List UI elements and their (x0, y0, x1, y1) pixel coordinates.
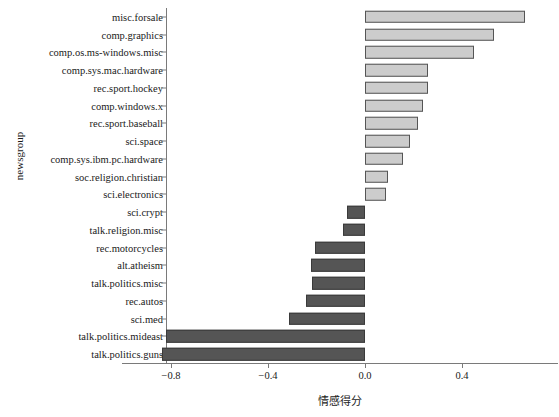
y-tick-mark (161, 283, 166, 284)
y-tick-label: comp.graphics (101, 29, 163, 40)
y-tick-mark (161, 70, 166, 71)
bar-row: sci.electronics (122, 186, 558, 204)
bar-row: alt.atheism (122, 257, 558, 275)
bar[interactable] (343, 224, 365, 237)
x-tick-label: 0.4 (455, 370, 468, 381)
x-tick-mark (268, 363, 269, 368)
x-tick-mark (462, 363, 463, 368)
bar[interactable] (365, 28, 494, 41)
x-tick-label: −0.8 (161, 370, 180, 381)
x-tick-label: −0.4 (258, 370, 277, 381)
bar-row: sci.space (122, 132, 558, 150)
bar-row: misc.forsale (122, 8, 558, 26)
bar-row: rec.sport.hockey (122, 79, 558, 97)
y-tick-label: comp.os.ms-windows.misc (49, 47, 163, 58)
y-tick-label: comp.sys.mac.hardware (62, 65, 163, 76)
bar-row: rec.sport.baseball (122, 115, 558, 133)
bar-row: talk.religion.misc (122, 221, 558, 239)
y-tick-mark (161, 87, 166, 88)
y-tick-mark (161, 105, 166, 106)
bar-row: rec.motorcycles (122, 239, 558, 257)
y-tick-label: rec.autos (125, 295, 163, 306)
y-tick-mark (161, 123, 166, 124)
bar[interactable] (365, 135, 410, 148)
y-tick-label: rec.sport.hockey (94, 82, 163, 93)
bar-row: comp.sys.mac.hardware (122, 61, 558, 79)
y-tick-mark (161, 34, 166, 35)
y-tick-mark (161, 318, 166, 319)
bar[interactable] (365, 82, 428, 95)
bar[interactable] (365, 117, 418, 130)
plot-area: misc.forsalecomp.graphicscomp.os.ms-wind… (122, 8, 558, 363)
x-tick-mark (171, 363, 172, 368)
bar[interactable] (166, 330, 365, 343)
bar-row: talk.politics.misc (122, 274, 558, 292)
bar-row: sci.med (122, 310, 558, 328)
bar[interactable] (365, 170, 388, 183)
y-tick-mark (161, 16, 166, 17)
y-tick-label: sci.med (131, 313, 163, 324)
bar[interactable] (162, 348, 365, 361)
y-axis-title: newsgroup (13, 111, 25, 201)
bar[interactable] (347, 206, 365, 219)
bar-row: rec.autos (122, 292, 558, 310)
bar-row: comp.os.ms-windows.misc (122, 44, 558, 62)
bar-row: soc.religion.christian (122, 168, 558, 186)
bar-row: comp.windows.x (122, 97, 558, 115)
bar[interactable] (365, 11, 525, 24)
x-axis-title: 情感得分 (122, 392, 558, 408)
y-tick-mark (161, 247, 166, 248)
y-tick-label: talk.religion.misc (90, 224, 164, 235)
y-tick-label: comp.sys.ibm.pc.hardware (50, 153, 163, 164)
y-tick-label: rec.motorcycles (96, 242, 163, 253)
y-tick-label: talk.politics.misc (91, 278, 163, 289)
x-tick-mark (365, 363, 366, 368)
y-tick-mark (161, 52, 166, 53)
y-tick-mark (161, 141, 166, 142)
x-tick-label: 0.0 (358, 370, 371, 381)
bar[interactable] (289, 312, 365, 325)
y-tick-mark (161, 229, 166, 230)
bar[interactable] (365, 188, 386, 201)
bar[interactable] (365, 64, 428, 77)
bar[interactable] (365, 46, 474, 59)
bar[interactable] (315, 241, 365, 254)
bar-row: sci.crypt (122, 203, 558, 221)
bar[interactable] (306, 295, 365, 308)
bar[interactable] (312, 277, 365, 290)
y-tick-mark (161, 212, 166, 213)
y-tick-label: sci.electronics (103, 189, 163, 200)
x-axis-line (122, 363, 558, 364)
y-tick-label: sci.space (125, 136, 163, 147)
y-tick-label: soc.religion.christian (75, 171, 163, 182)
y-tick-mark (161, 158, 166, 159)
y-tick-label: comp.windows.x (91, 100, 163, 111)
bar-row: talk.politics.guns (122, 345, 558, 363)
bar-row: talk.politics.mideast (122, 328, 558, 346)
bar[interactable] (365, 153, 403, 166)
bar[interactable] (311, 259, 365, 272)
bar-row: comp.graphics (122, 26, 558, 44)
y-tick-label: talk.politics.mideast (78, 331, 163, 342)
y-tick-mark (161, 300, 166, 301)
y-tick-label: misc.forsale (112, 11, 163, 22)
y-tick-label: rec.sport.baseball (90, 118, 163, 129)
y-tick-mark (161, 265, 166, 266)
bar-row: comp.sys.ibm.pc.hardware (122, 150, 558, 168)
y-tick-mark (161, 194, 166, 195)
sentiment-bar-chart: newsgroup misc.forsalecomp.graphicscomp.… (0, 0, 559, 417)
bar[interactable] (365, 99, 423, 112)
y-tick-mark (161, 176, 166, 177)
y-tick-label: sci.crypt (127, 207, 163, 218)
y-tick-label: alt.atheism (117, 260, 163, 271)
y-tick-label: talk.politics.guns (91, 349, 163, 360)
